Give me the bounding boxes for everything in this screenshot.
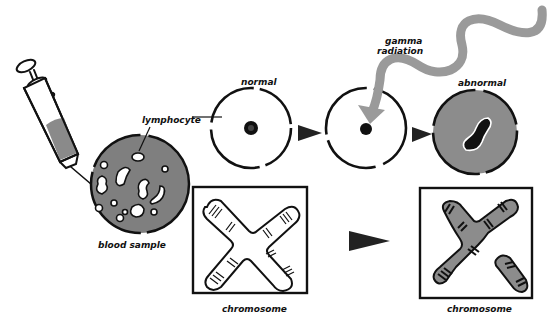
chromosome-normal-label: chromosome [222, 304, 287, 314]
abnormal-chromosome-box [420, 188, 532, 298]
abnormal-label: abnormal [458, 78, 506, 88]
gamma-label: gamma [385, 36, 422, 46]
normal-cell [192, 88, 291, 168]
normal-label: normal [241, 77, 277, 87]
blood-sample-label: blood sample [98, 240, 166, 250]
arrow-right-icon [298, 125, 322, 141]
normal-chromosome-box [193, 187, 307, 293]
arrow-right-icon [412, 127, 432, 142]
chromosome-abnormal-label: chromosome [447, 304, 512, 314]
syringe-icon [15, 57, 98, 190]
abnormal-cell [433, 90, 517, 174]
radiation-label: radiation [377, 46, 423, 56]
diagram-canvas [0, 0, 549, 321]
irradiated-cell [326, 88, 406, 168]
lymphocyte-label: lymphocyte [142, 115, 201, 125]
arrow-right-icon [349, 231, 390, 251]
blood-sample-dish [91, 127, 189, 233]
